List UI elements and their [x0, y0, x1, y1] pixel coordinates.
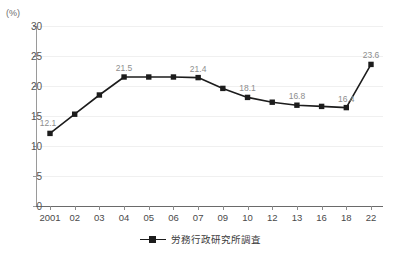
x-tick-mark-16	[322, 206, 323, 210]
data-point-02	[72, 112, 77, 117]
x-tick-mark-2001	[50, 206, 51, 210]
x-tick-mark-22	[371, 206, 372, 210]
data-point-22	[368, 62, 373, 67]
data-point-10	[245, 95, 250, 100]
x-tick-mark-18	[346, 206, 347, 210]
y-axis-unit-label: (%)	[6, 8, 20, 18]
point-label-22: 23.6	[363, 51, 380, 60]
data-point-2001	[47, 131, 52, 136]
x-tick-mark-10	[248, 206, 249, 210]
x-tick-label-2001: 2001	[39, 213, 60, 223]
x-tick-label-07: 07	[193, 213, 204, 223]
x-tick-label-18: 18	[341, 213, 352, 223]
data-point-06	[171, 74, 176, 79]
data-point-03	[97, 92, 102, 97]
x-tick-mark-09	[223, 206, 224, 210]
point-label-10: 18.1	[239, 84, 256, 93]
point-label-07: 21.4	[190, 65, 207, 74]
x-tick-mark-06	[173, 206, 174, 210]
x-tick-label-16: 16	[316, 213, 327, 223]
x-tick-label-02: 02	[69, 213, 80, 223]
x-tick-label-06: 06	[168, 213, 179, 223]
line-chart: (%) 30 25 20 15 10 5 0 2	[0, 0, 401, 257]
legend-marker-icon	[140, 235, 166, 244]
x-axis-line	[36, 206, 383, 207]
legend-series-label: 労務行政研究所調査	[171, 232, 261, 246]
data-point-04	[121, 74, 126, 79]
series-polyline	[50, 64, 371, 133]
plot-area: 30 25 20 15 10 5 0 200102030405060709101…	[36, 26, 383, 206]
x-tick-mark-03	[99, 206, 100, 210]
x-tick-label-12: 12	[267, 213, 278, 223]
x-tick-label-04: 04	[119, 213, 130, 223]
x-tick-label-13: 13	[292, 213, 303, 223]
x-tick-mark-13	[297, 206, 298, 210]
x-tick-mark-02	[75, 206, 76, 210]
x-tick-mark-05	[149, 206, 150, 210]
data-point-09	[220, 86, 225, 91]
data-point-18	[344, 105, 349, 110]
x-tick-label-03: 03	[94, 213, 105, 223]
point-label-18: 16.4	[338, 95, 355, 104]
series-line-romu-gyosei	[36, 26, 383, 206]
data-point-16	[319, 104, 324, 109]
point-label-04: 21.5	[116, 64, 133, 73]
data-point-05	[146, 74, 151, 79]
point-label-13: 16.8	[289, 92, 306, 101]
x-tick-mark-12	[272, 206, 273, 210]
x-tick-label-05: 05	[143, 213, 154, 223]
data-point-07	[195, 75, 200, 80]
data-point-12	[270, 100, 275, 105]
chart-legend: 労務行政研究所調査	[0, 232, 401, 246]
x-tick-label-09: 09	[218, 213, 229, 223]
x-tick-mark-04	[124, 206, 125, 210]
data-point-13	[294, 103, 299, 108]
x-tick-mark-07	[198, 206, 199, 210]
x-tick-label-10: 10	[242, 213, 253, 223]
point-label-2001: 12.1	[40, 119, 57, 128]
x-tick-label-22: 22	[366, 213, 377, 223]
